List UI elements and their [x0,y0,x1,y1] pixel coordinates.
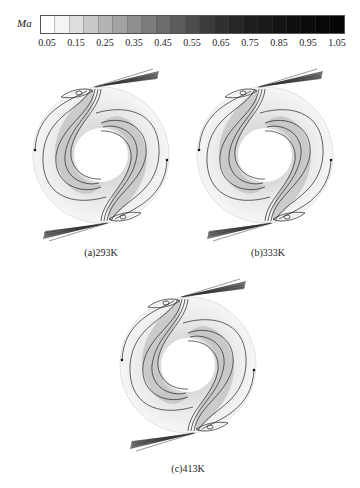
color-scale-segment [301,16,315,33]
color-scale-segment [258,16,272,33]
tick-label: 1.05 [328,37,346,48]
caption-b: (b)333K [251,247,285,258]
color-scale-segment [84,16,98,33]
flow-field-diagram-c [88,270,288,460]
color-scale-segment [215,16,229,33]
color-scale-segment [55,16,69,33]
tick-label: 0.85 [270,37,288,48]
color-scale-segment [316,16,330,33]
color-scale-segment [99,16,113,33]
panel-c-413k: (c)413K [88,270,288,485]
panel-b-333k: (b)333K [165,60,360,260]
color-scale-bar [40,15,345,34]
caption-c: (c)413K [171,463,204,474]
color-scale-segment [273,16,287,33]
color-scale-segment [128,16,142,33]
color-scale-segment [70,16,84,33]
caption-a: (a)293K [84,247,117,258]
flow-field-diagram-b [165,60,360,250]
legend-variable-label: Ma [17,17,32,29]
color-scale-segment [330,16,343,33]
color-scale-segment [142,16,156,33]
tick-label: 0.05 [38,37,56,48]
tick-label: 0.75 [241,37,259,48]
tick-label: 0.25 [96,37,114,48]
tick-label: 0.95 [299,37,317,48]
color-scale-segment [200,16,214,33]
tick-label: 0.15 [67,37,85,48]
tick-label: 0.35 [125,37,143,48]
color-scale-segment [157,16,171,33]
color-scale-segment [287,16,301,33]
color-scale-segment [113,16,127,33]
tick-label: 0.45 [154,37,172,48]
color-scale-segment [229,16,243,33]
color-scale-segment [171,16,185,33]
color-scale-segment [41,16,55,33]
mach-number-legend: Ma 0.05 0.15 0.25 0.35 0.45 0.55 0.65 0.… [0,0,360,55]
color-scale-segment [186,16,200,33]
color-scale-segment [244,16,258,33]
tick-label: 0.55 [183,37,201,48]
tick-label: 0.65 [212,37,230,48]
